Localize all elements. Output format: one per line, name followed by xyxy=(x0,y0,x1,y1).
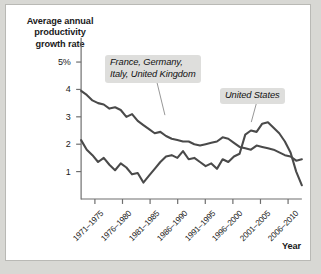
y-tick-label: 4 xyxy=(45,84,71,94)
series-line xyxy=(81,122,302,185)
annotation-europe-label: France, Germany, Italy, United Kingdom xyxy=(105,55,201,83)
chart-figure: Average annual productivity growth rate … xyxy=(5,4,311,261)
x-axis-ticks xyxy=(95,199,288,204)
annotation-leader-line xyxy=(156,78,165,115)
data-series-group xyxy=(81,91,302,185)
y-tick-label: 3 xyxy=(45,112,71,122)
y-axis-ticks xyxy=(76,62,81,172)
y-tick-label: 5% xyxy=(45,57,71,67)
y-tick-label: 1 xyxy=(45,167,71,177)
y-tick-label: 2 xyxy=(45,139,71,149)
annotation-us-label: United States xyxy=(220,88,285,104)
